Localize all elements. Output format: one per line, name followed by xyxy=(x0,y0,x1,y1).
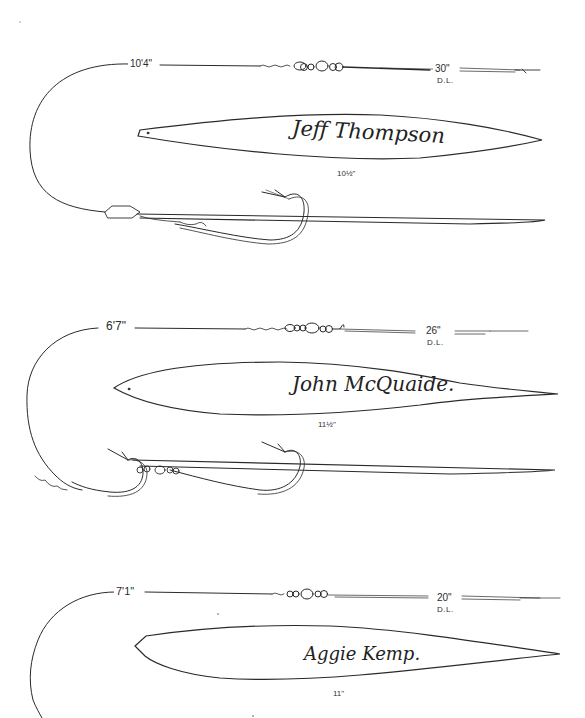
rig-2-line-type: D.L. xyxy=(427,338,444,347)
rig-2-leader-line xyxy=(27,328,98,490)
rig-2-drawing xyxy=(27,323,558,496)
rig-1-leader-line xyxy=(30,64,130,212)
hook-2a xyxy=(72,449,143,492)
hook-2b xyxy=(170,442,300,490)
rig-2-leader-length: 6'7" xyxy=(104,321,128,332)
rig-1-drawing xyxy=(30,61,545,244)
rig-1-lure-length: 10½" xyxy=(337,169,355,178)
rig-3-leader-length: 7'1" xyxy=(114,586,136,597)
swivel-icon xyxy=(285,323,344,333)
rig-3-line-test: 20" xyxy=(435,592,454,603)
rig-1-line-type: D.L. xyxy=(437,76,454,85)
rig-2-lure-length: 11½" xyxy=(318,420,336,429)
rig-1-leader-length: 10'4" xyxy=(128,58,154,69)
rig-3-lure-length: 11" xyxy=(333,689,344,698)
rig-2-maker-signature: John McQuaide. xyxy=(292,372,454,396)
swivel-icon xyxy=(294,61,343,71)
rig-3-leader-line xyxy=(30,592,115,718)
rig-3-line-type: D.L. xyxy=(437,605,454,614)
rig-3-maker-signature: Aggie Kemp. xyxy=(304,643,420,664)
rig-illustrations xyxy=(0,0,585,718)
rig-1-line-test: 30" xyxy=(433,63,452,74)
shank-2 xyxy=(133,460,555,474)
swivel-icon xyxy=(287,589,328,599)
rig-2-line-test: 26" xyxy=(424,325,443,336)
